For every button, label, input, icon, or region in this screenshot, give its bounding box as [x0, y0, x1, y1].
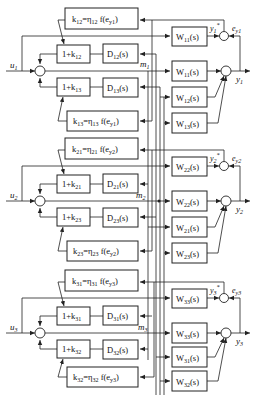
- svg-text:y3*: y3*: [209, 284, 220, 296]
- section-3: u3 1+k31 D31(s) k31=η31 f(ey3) 1+k32 D32…: [6, 270, 250, 391]
- svg-text:ey3: ey3: [232, 286, 241, 296]
- section-1: u1 1+k12 D12(s) k12=η12 f(ey1) 1+k13 D13…: [6, 8, 250, 133]
- svg-text:y2: y2: [235, 204, 243, 215]
- svg-text:m3: m3: [138, 322, 148, 333]
- bus-lines: [140, 20, 170, 395]
- svg-text:y1: y1: [235, 74, 243, 85]
- m-label: m1: [140, 59, 150, 70]
- svg-text:ey2: ey2: [232, 154, 241, 164]
- svg-text:ey1: ey1: [232, 24, 241, 34]
- svg-text:y3: y3: [235, 336, 243, 347]
- svg-text:m2: m2: [136, 190, 146, 201]
- section-2: u2 1+k21 D21(s) k21=η21 f(ey2) 1+k23 D23…: [6, 138, 250, 263]
- svg-text:y1*: y1*: [209, 22, 220, 34]
- block-diagram: u1 1+k12 D12(s) k12=η12 f(ey1) 1+k13 D13…: [0, 0, 257, 397]
- svg-text:u2: u2: [10, 190, 18, 201]
- input-label: u1: [10, 60, 18, 71]
- svg-text:u3: u3: [10, 322, 18, 333]
- summing-junction: [35, 66, 45, 76]
- svg-text:y2*: y2*: [209, 152, 220, 164]
